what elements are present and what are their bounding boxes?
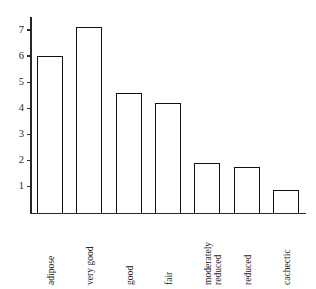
bar <box>76 27 102 212</box>
x-axis-label: fair <box>164 219 174 285</box>
y-axis-tick-mark <box>27 82 31 83</box>
y-axis-tick-mark <box>27 108 31 109</box>
y-axis-tick-mark <box>27 186 31 187</box>
y-axis-tick-mark <box>27 134 31 135</box>
x-axis-label-line: cachectic <box>281 249 292 285</box>
x-axis-label: reduced <box>243 219 253 285</box>
y-axis-tick-label: 5 <box>4 77 24 88</box>
x-axis-label-line: reduced <box>214 219 224 285</box>
bar <box>116 93 142 213</box>
x-axis-label: adipose <box>46 219 56 285</box>
x-axis-label: cachectic <box>282 219 292 285</box>
x-axis-label-line: very good <box>84 246 95 285</box>
bar <box>194 163 220 213</box>
bar <box>37 56 63 212</box>
x-axis-label-line: reduced <box>242 255 253 285</box>
bar <box>234 167 260 213</box>
x-axis-label: moderatelyreduced <box>203 219 223 285</box>
bar <box>273 190 299 212</box>
y-axis-tick-label: 2 <box>4 155 24 166</box>
plot-area: 1234567 adiposevery goodgoodfairmoderate… <box>0 0 316 289</box>
y-axis-tick-mark <box>27 55 31 56</box>
y-axis-tick-label: 7 <box>4 25 24 36</box>
y-axis-tick-mark <box>27 29 31 30</box>
bar <box>155 103 181 213</box>
x-axis-label-line: good <box>124 266 135 285</box>
x-axis-label-line: adipose <box>45 256 56 285</box>
y-axis-tick-label: 1 <box>4 181 24 192</box>
x-axis-line <box>30 213 306 215</box>
y-axis-tick-label: 4 <box>4 103 24 114</box>
x-axis-label: very good <box>85 219 95 285</box>
bar-chart-figure: 1234567 adiposevery goodgoodfairmoderate… <box>0 0 316 289</box>
y-axis-tick-label: 3 <box>4 129 24 140</box>
y-axis-tick-mark <box>27 160 31 161</box>
x-axis-label: good <box>125 219 135 285</box>
y-axis-tick-label: 6 <box>4 51 24 62</box>
y-axis-line <box>30 17 32 214</box>
x-axis-label-line: fair <box>163 272 174 285</box>
